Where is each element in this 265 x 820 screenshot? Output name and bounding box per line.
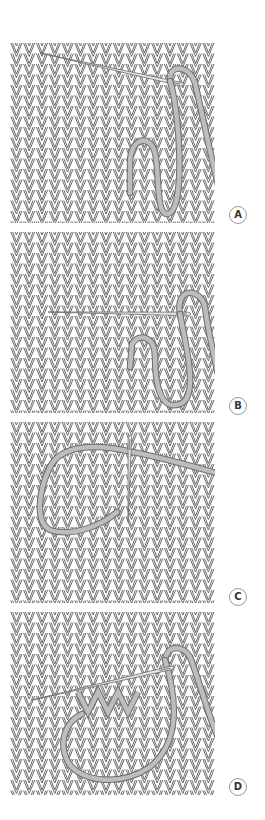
needle-shaft bbox=[40, 53, 184, 86]
step-c-panel bbox=[10, 422, 215, 603]
yarn-fill bbox=[40, 447, 132, 532]
knit-fabric-c bbox=[10, 422, 215, 603]
step-b-panel bbox=[10, 232, 215, 413]
needle-a bbox=[40, 53, 184, 86]
step-label-d: D bbox=[229, 778, 247, 796]
knit-fabric-b bbox=[10, 232, 215, 413]
knit-fabric-d bbox=[10, 612, 215, 795]
knit-fabric-a bbox=[10, 43, 215, 223]
step-label-b: B bbox=[229, 397, 247, 415]
step-d-panel bbox=[10, 612, 215, 795]
step-a-panel bbox=[10, 43, 215, 223]
step-label-a: A bbox=[229, 206, 247, 224]
yarn-c-loop bbox=[40, 447, 132, 532]
step-label-c: C bbox=[229, 588, 247, 606]
